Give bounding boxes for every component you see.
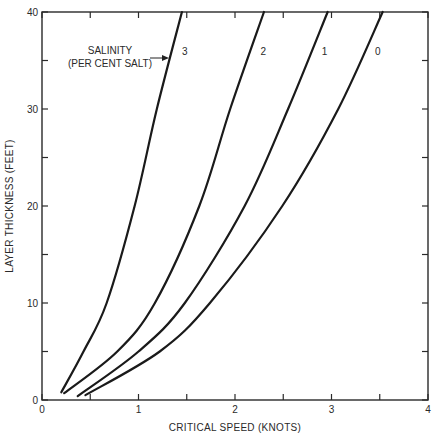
y-tick-label: 0 — [32, 395, 38, 406]
x-tick-label: 4 — [425, 404, 431, 415]
salinity-annotation: SALINITY (PER CENT SALT) — [68, 45, 169, 69]
plot-border — [42, 12, 428, 400]
curve-label-1: 1 — [322, 46, 328, 57]
curve-label-2: 2 — [260, 46, 266, 57]
arrow-head-icon — [162, 55, 169, 61]
y-tick-label: 10 — [27, 298, 39, 309]
salinity-curve-2 — [64, 12, 264, 393]
curves — [61, 12, 382, 396]
y-tick-label: 30 — [27, 104, 39, 115]
x-tick-label: 0 — [39, 404, 45, 415]
x-tick-label: 3 — [329, 404, 335, 415]
plot-frame — [42, 12, 428, 400]
annotation-line1: SALINITY — [88, 45, 133, 56]
x-axis-title: CRITICAL SPEED (KNOTS) — [169, 422, 301, 433]
y-axis-title: LAYER THICKNESS (FEET) — [4, 139, 15, 272]
salinity-curve-1 — [78, 12, 328, 396]
x-tick-label: 1 — [136, 404, 142, 415]
curve-label-3: 3 — [182, 46, 188, 57]
chart: 01234010203040 3210 CRITICAL SPEED (KNOT… — [0, 0, 437, 435]
salinity-curve-3 — [61, 12, 182, 392]
annotation-line2: (PER CENT SALT) — [68, 58, 152, 69]
curve-label-0: 0 — [375, 46, 381, 57]
x-tick-label: 2 — [232, 404, 238, 415]
y-tick-label: 20 — [27, 201, 39, 212]
y-tick-label: 40 — [27, 7, 39, 18]
curve-labels: 3210 — [182, 46, 381, 57]
